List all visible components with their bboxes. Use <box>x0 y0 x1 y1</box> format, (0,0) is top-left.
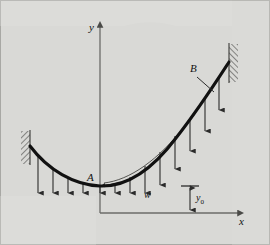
right-support <box>229 43 238 83</box>
x-axis-label: x <box>239 216 244 227</box>
diagram-canvas <box>0 0 270 245</box>
point-a-label: A <box>87 172 94 183</box>
load-intensity-label: w <box>144 190 151 200</box>
right-support-hatch <box>229 44 238 82</box>
left-support-hatch <box>21 131 30 164</box>
cable-diagram-figure: A B w y x y0 <box>0 0 270 245</box>
y0-subscript: 0 <box>200 198 204 206</box>
point-b-label: B <box>190 63 197 74</box>
y0-dimension-label: y0 <box>196 193 204 206</box>
y-axis-label: y <box>89 22 94 33</box>
left-support <box>21 130 30 165</box>
